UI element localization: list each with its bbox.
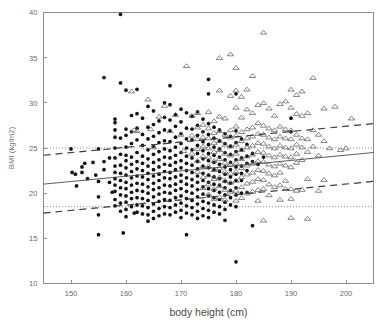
data-point-circle: [190, 171, 194, 175]
data-point-circle: [130, 114, 134, 118]
y-tick-label: 30: [29, 99, 37, 108]
data-point-circle: [179, 173, 183, 177]
data-point-circle: [185, 204, 189, 208]
y-tick-label: 15: [29, 234, 37, 243]
data-point-circle: [185, 162, 189, 166]
data-point-circle: [124, 194, 128, 198]
data-point-circle: [207, 92, 211, 96]
data-point-circle: [119, 163, 123, 167]
data-point-circle: [289, 116, 293, 120]
figure-container: 15016017018019020010152025303540body hei…: [0, 0, 390, 329]
data-point-circle: [97, 213, 101, 217]
data-point-circle: [119, 136, 123, 140]
data-point-circle: [146, 137, 150, 141]
data-point-circle: [196, 174, 200, 178]
data-point-circle: [207, 78, 211, 82]
data-point-circle: [163, 155, 167, 159]
data-point-circle: [185, 146, 189, 150]
data-point-circle: [146, 157, 150, 161]
data-point-circle: [185, 233, 189, 237]
data-point-circle: [168, 84, 172, 88]
data-point-circle: [119, 209, 123, 213]
data-point-circle: [201, 199, 205, 203]
data-point-circle: [185, 211, 189, 215]
data-point-circle: [234, 260, 238, 264]
data-point-circle: [141, 169, 145, 173]
data-point-circle: [135, 196, 139, 200]
data-point-circle: [196, 202, 200, 206]
data-point-circle: [135, 210, 139, 214]
data-point-circle: [207, 187, 211, 191]
y-tick-label: 40: [29, 8, 37, 17]
data-point-circle: [168, 199, 172, 203]
data-point-circle: [157, 150, 161, 154]
data-point-circle: [163, 176, 167, 180]
data-point-circle: [201, 192, 205, 196]
data-point-circle: [212, 210, 216, 214]
data-point-circle: [157, 179, 161, 183]
data-point-circle: [124, 215, 128, 219]
data-point-circle: [124, 134, 128, 138]
data-point-circle: [190, 163, 194, 167]
data-point-circle: [223, 208, 227, 212]
data-point-circle: [168, 213, 172, 217]
data-point-circle: [201, 149, 205, 153]
data-point-circle: [212, 153, 216, 157]
data-point-circle: [70, 171, 74, 175]
data-point-circle: [218, 170, 222, 174]
data-point-circle: [174, 145, 178, 149]
data-point-circle: [179, 216, 183, 220]
data-point-circle: [130, 142, 134, 146]
data-point-circle: [141, 175, 145, 179]
data-point-circle: [157, 214, 161, 218]
data-point-circle: [190, 206, 194, 210]
data-point-circle: [113, 121, 117, 125]
data-point-circle: [212, 203, 216, 207]
data-point-circle: [163, 212, 167, 216]
data-point-circle: [119, 179, 123, 183]
data-point-circle: [124, 127, 128, 131]
data-point-circle: [174, 135, 178, 139]
y-axis-title: BMI (kg/m2): [7, 126, 16, 169]
data-point-circle: [190, 178, 194, 182]
data-point-circle: [234, 186, 238, 190]
data-point-circle: [251, 224, 255, 228]
x-tick-label: 150: [65, 289, 78, 298]
data-point-circle: [179, 208, 183, 212]
data-point-circle: [190, 184, 194, 188]
data-point-circle: [157, 192, 161, 196]
data-point-circle: [207, 201, 211, 205]
data-point-circle: [141, 154, 145, 158]
data-point-circle: [174, 189, 178, 193]
data-point-circle: [185, 154, 189, 158]
data-point-circle: [207, 208, 211, 212]
data-point-circle: [168, 206, 172, 210]
data-point-circle: [74, 172, 78, 176]
data-point-circle: [97, 195, 101, 199]
data-point-circle: [94, 173, 98, 177]
data-point-circle: [218, 205, 222, 209]
data-point-circle: [124, 187, 128, 191]
data-point-circle: [201, 214, 205, 218]
x-tick-label: 200: [340, 289, 353, 298]
data-point-circle: [168, 118, 172, 122]
data-point-circle: [240, 179, 244, 183]
data-point-circle: [102, 160, 106, 164]
data-point-circle: [135, 167, 139, 171]
data-point-circle: [218, 212, 222, 216]
data-point-circle: [234, 92, 238, 96]
data-point-circle: [174, 203, 178, 207]
data-point-circle: [152, 109, 156, 113]
data-point-circle: [135, 189, 139, 193]
data-point-circle: [146, 178, 150, 182]
data-point-circle: [190, 127, 194, 131]
data-point-circle: [130, 170, 134, 174]
data-point-circle: [130, 197, 134, 201]
data-point-circle: [190, 156, 194, 160]
data-point-circle: [113, 171, 117, 175]
data-point-circle: [124, 159, 128, 163]
data-point-circle: [179, 166, 183, 170]
data-point-circle: [113, 183, 117, 187]
data-point-circle: [234, 158, 238, 162]
data-point-circle: [223, 218, 227, 222]
